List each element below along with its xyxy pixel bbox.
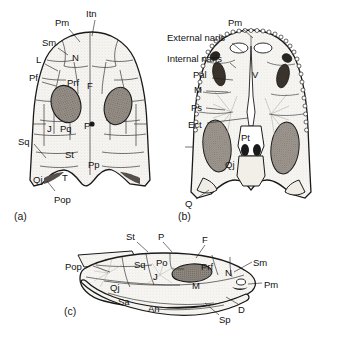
bone-label-a-sm: Sm bbox=[42, 38, 56, 48]
bone-label-c-prf: Prf bbox=[201, 262, 213, 272]
bone-label-b-m: M bbox=[194, 85, 202, 95]
bone-label-c-sp: Sp bbox=[219, 315, 231, 325]
bone-label-c-st: St bbox=[126, 232, 135, 242]
bone-label-a-pop: Pop bbox=[54, 195, 71, 205]
bone-label-a-j: J bbox=[47, 124, 52, 134]
bone-label-c-sq: Sq bbox=[134, 260, 146, 270]
bone-label-a-f: F bbox=[87, 81, 93, 91]
bone-label-c-n: N bbox=[225, 268, 232, 278]
bone-label-c-qj: Qj bbox=[110, 283, 120, 293]
bone-label-b-v: V bbox=[252, 70, 258, 80]
bone-label-b-ps: Ps bbox=[191, 103, 202, 113]
bone-label-c-sm: Sm bbox=[253, 258, 267, 268]
bone-label-b-internal-naris: Internal naris bbox=[167, 54, 222, 64]
bone-label-c-pop: Pop bbox=[65, 262, 82, 272]
bone-label-a-pm: Pm bbox=[55, 18, 69, 28]
bone-label-a-t: T bbox=[62, 173, 68, 183]
bone-label-c-po: Po bbox=[156, 258, 168, 268]
bone-label-a-qj: Qj bbox=[33, 175, 43, 185]
bone-label-c-f: F bbox=[202, 235, 208, 245]
bone-label-b-q: Q bbox=[185, 199, 192, 209]
braincase-occipital bbox=[237, 156, 265, 186]
right-palatal-vacuity bbox=[254, 43, 272, 53]
bone-label-b-ect: Ect bbox=[188, 120, 202, 130]
left-palatal-vacuity bbox=[230, 43, 248, 53]
bone-label-a-pq: Pq bbox=[60, 124, 72, 134]
bone-label-b-pt: Pt bbox=[241, 133, 250, 143]
bone-label-a-p: P bbox=[84, 121, 90, 131]
bone-label-c-p: P bbox=[158, 232, 164, 242]
bone-label-c-an: An bbox=[148, 304, 160, 314]
bone-label-a-l: L bbox=[36, 55, 41, 65]
panel-caption-c: (c) bbox=[64, 305, 76, 317]
panel-caption-b: (b) bbox=[178, 210, 191, 222]
bone-label-a-prf: Prf bbox=[67, 78, 79, 88]
bone-label-a-sq: Sq bbox=[18, 137, 30, 147]
bone-label-b-external-naris: External naris bbox=[167, 33, 225, 43]
panel-c-lateral-skull bbox=[60, 225, 280, 330]
bone-label-c-m: M bbox=[192, 281, 200, 291]
bone-label-c-pm: Pm bbox=[264, 280, 278, 290]
left-basal-articulation bbox=[241, 144, 249, 156]
bone-label-a-itn: Itn bbox=[86, 9, 97, 19]
bone-label-c-j: J bbox=[153, 272, 158, 282]
bone-label-b-pal: Pal bbox=[193, 70, 207, 80]
bone-label-c-sa: Sa bbox=[118, 297, 130, 307]
right-basal-articulation bbox=[253, 144, 261, 156]
panel-caption-a: (a) bbox=[14, 210, 27, 222]
bone-label-b-qj: Qj bbox=[225, 160, 235, 170]
skull-anatomy-figure: (a)PmItnSmLPfNPrfFJPqPSqStPpTQjPop(b)PmE… bbox=[0, 0, 337, 337]
bone-label-a-pp: Pp bbox=[88, 160, 100, 170]
external-naris-lateral bbox=[237, 279, 246, 285]
bone-label-a-pf: Pf bbox=[29, 73, 38, 83]
bone-label-a-st: St bbox=[65, 150, 74, 160]
bone-label-b-pm: Pm bbox=[228, 18, 242, 28]
panel-a-dorsal-skull bbox=[0, 0, 180, 210]
bone-label-a-n: N bbox=[72, 53, 79, 63]
bone-label-c-d: D bbox=[238, 305, 245, 315]
